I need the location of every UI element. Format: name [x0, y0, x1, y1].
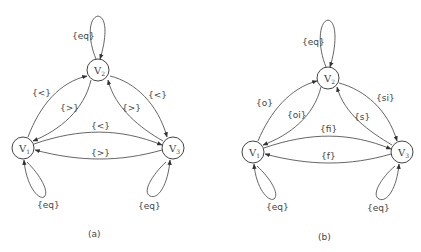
edge-label-b-v3-v2: {s}: [354, 112, 370, 122]
edge-label-b-v2-self: {eq}: [302, 37, 325, 47]
diagram-a: {eq} {<} {>} {>} {<} {<} {>} {eq} {eq} V…: [12, 16, 184, 239]
edge-label-a-v1-v3: {<}: [91, 121, 110, 131]
edge-label-a-v3-v2: {>}: [122, 103, 141, 113]
edge-a-v1-self-tail: [27, 162, 46, 197]
edge-label-b-v3-self: {eq}: [367, 203, 390, 213]
relation-graphs-figure: {eq} {<} {>} {>} {<} {<} {>} {eq} {eq} V…: [0, 0, 421, 252]
edge-a-v3-self: [147, 162, 166, 196]
edge-label-b-v2-v1: {oi}: [287, 110, 306, 120]
node-b-v3: V3: [391, 141, 413, 163]
node-a-v1: V1: [12, 137, 34, 159]
edge-label-b-v1-v3: {fi}: [320, 124, 337, 134]
caption-a: (a): [88, 229, 101, 239]
edge-label-a-v3-v1: {>}: [91, 148, 110, 158]
edge-a-v3-self-head: [150, 160, 170, 197]
edge-label-a-v2-v1: {>}: [60, 103, 79, 113]
edge-label-a-v3-self: {eq}: [138, 201, 161, 211]
edge-label-b-v1-self: {eq}: [266, 202, 289, 212]
edge-label-b-v2-v3: {si}: [376, 93, 395, 103]
edge-label-a-v1-v2: {<}: [32, 88, 51, 98]
node-b-v2: V2: [317, 67, 339, 89]
node-a-v3: V3: [162, 137, 184, 159]
edge-label-a-v2-v3: {<}: [148, 90, 167, 100]
edge-label-a-v1-self: {eq}: [37, 200, 60, 210]
edge-label-b-v1-v2: {o}: [256, 98, 273, 108]
edge-b-v1-v3: [264, 136, 391, 149]
edge-b-v3-self: [376, 166, 395, 199]
node-b-v1: V1: [242, 141, 264, 163]
edge-b-v1-self-tail: [257, 166, 276, 199]
edge-label-b-v3-v1: {f}: [321, 151, 336, 161]
edge-b-v3-self-head: [379, 164, 399, 200]
edge-label-a-v2-self: {eq}: [72, 31, 95, 41]
node-a-v2: V2: [87, 59, 109, 81]
edge-a-v1-self: [24, 160, 44, 197]
edge-a-v1-v3: [34, 132, 162, 145]
caption-b: (b): [318, 232, 331, 242]
diagram-b: {eq} {o} {oi} {s} {si} {fi} {f} {eq} {eq…: [242, 20, 413, 242]
